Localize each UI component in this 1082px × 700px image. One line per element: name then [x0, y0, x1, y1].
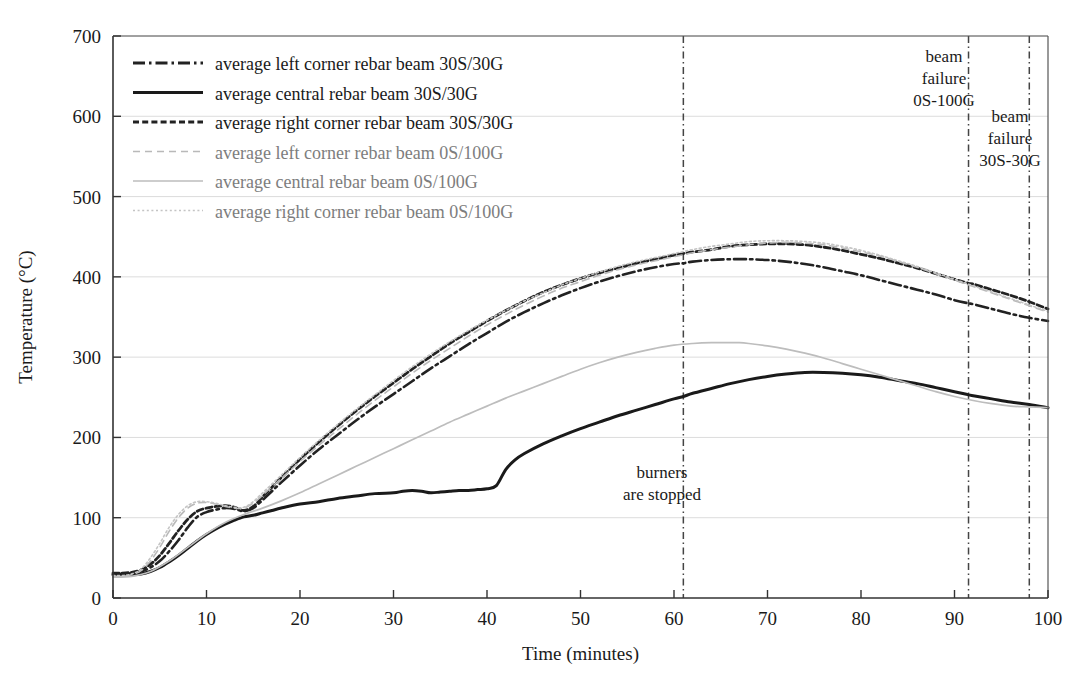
y-tick-label-700: 700 — [73, 26, 102, 47]
legend-label-0: average left corner rebar beam 30S/30G — [215, 54, 503, 74]
legend-label-3: average left corner rebar beam 0S/100G — [215, 143, 503, 163]
annotation-beam-failure-30s30g-line-2: 30S-30G — [979, 151, 1040, 170]
x-tick-label-20: 20 — [291, 608, 310, 629]
x-tick-label-40: 40 — [478, 608, 497, 629]
x-tick-label-90: 90 — [945, 608, 964, 629]
annotation-burners-stopped-line-1: are stopped — [623, 485, 701, 504]
y-tick-label-100: 100 — [73, 508, 102, 529]
y-tick-label-0: 0 — [92, 588, 102, 609]
annotation-beam-failure-0s100g-line-1: failure — [922, 69, 966, 88]
x-tick-label-10: 10 — [197, 608, 216, 629]
x-tick-label-0: 0 — [108, 608, 118, 629]
y-tick-label-500: 500 — [73, 187, 102, 208]
x-tick-label-50: 50 — [571, 608, 590, 629]
temperature-time-line-chart: 0100200300400500600700010203040506070809… — [0, 0, 1082, 700]
annotation-beam-failure-30s30g-line-0: beam — [992, 107, 1029, 126]
chart-figure: 0100200300400500600700010203040506070809… — [0, 0, 1082, 700]
legend-label-4: average central rebar beam 0S/100G — [215, 172, 478, 192]
annotation-beam-failure-30s30g-line-1: failure — [988, 129, 1032, 148]
y-tick-label-300: 300 — [73, 347, 102, 368]
legend-label-5: average right corner rebar beam 0S/100G — [215, 202, 513, 222]
annotation-beam-failure-0s100g-line-2: 0S-100G — [913, 91, 974, 110]
x-tick-label-60: 60 — [665, 608, 684, 629]
legend-label-1: average central rebar beam 30S/30G — [215, 84, 478, 104]
annotation-burners-stopped-line-0: burners — [637, 463, 688, 482]
y-tick-label-200: 200 — [73, 427, 102, 448]
x-tick-label-100: 100 — [1034, 608, 1063, 629]
y-tick-label-600: 600 — [73, 106, 102, 127]
y-tick-label-400: 400 — [73, 267, 102, 288]
x-axis-title: Time (minutes) — [522, 643, 639, 665]
annotation-beam-failure-0s100g-line-0: beam — [926, 47, 963, 66]
legend-label-2: average right corner rebar beam 30S/30G — [215, 113, 513, 133]
y-axis-title: Temperature (°C) — [15, 250, 37, 383]
x-tick-label-80: 80 — [852, 608, 871, 629]
x-tick-label-70: 70 — [758, 608, 777, 629]
x-tick-label-30: 30 — [384, 608, 403, 629]
